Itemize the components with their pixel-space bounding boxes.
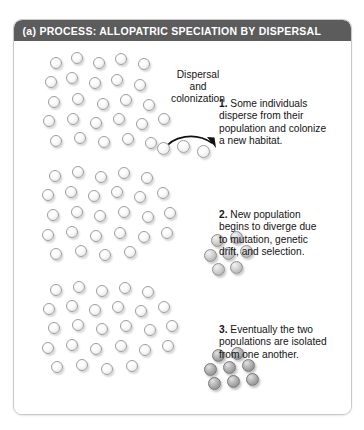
- organism-sphere: [158, 301, 170, 313]
- organism-sphere: [71, 52, 83, 64]
- figure-card: (a) PROCESS: ALLOPATRIC SPECIATION BY DI…: [13, 19, 352, 415]
- organism-sphere: [120, 320, 132, 332]
- figure-header-bar: (a) PROCESS: ALLOPATRIC SPECIATION BY DI…: [14, 20, 351, 41]
- step-1-text: Some individuals disperse from their pop…: [219, 98, 326, 146]
- organism-sphere: [166, 320, 178, 332]
- organism-sphere: [90, 117, 102, 129]
- organism-sphere: [51, 361, 63, 373]
- organism-sphere: [90, 230, 102, 242]
- organism-sphere: [139, 344, 151, 356]
- organism-sphere: [66, 226, 78, 238]
- organism-sphere: [142, 211, 154, 223]
- organism-sphere: [230, 261, 243, 274]
- organism-sphere: [122, 133, 134, 145]
- organism-sphere: [115, 340, 127, 352]
- organism-sphere: [74, 132, 86, 144]
- step-3-text: Eventually the two populations are isola…: [219, 324, 327, 360]
- organism-sphere: [157, 142, 170, 155]
- organism-sphere: [67, 113, 79, 125]
- organism-sphere: [96, 285, 108, 297]
- organism-sphere: [98, 136, 110, 148]
- organism-sphere: [93, 57, 105, 69]
- organism-sphere: [144, 324, 156, 336]
- organism-sphere: [115, 53, 127, 65]
- organism-sphere: [111, 74, 123, 86]
- organism-sphere: [88, 190, 100, 202]
- organism-sphere: [42, 189, 54, 201]
- dispersal-label-line-2: and: [155, 81, 241, 93]
- organism-sphere: [76, 359, 88, 371]
- organism-sphere: [72, 166, 84, 178]
- organism-sphere: [118, 167, 130, 179]
- organism-sphere: [42, 229, 54, 241]
- organism-sphere: [138, 231, 150, 243]
- organism-sphere: [134, 79, 146, 91]
- organism-sphere: [223, 361, 236, 374]
- organism-sphere: [97, 98, 109, 110]
- step-3-caption: 3. Eventually the two populations are is…: [219, 324, 327, 361]
- organism-sphere: [90, 343, 102, 355]
- organism-sphere: [197, 145, 210, 158]
- organism-sphere: [141, 172, 153, 184]
- organism-sphere: [142, 286, 154, 298]
- figure-panel-a: (a) PROCESS: ALLOPATRIC SPECIATION BY DI…: [0, 0, 364, 430]
- organism-sphere: [112, 301, 124, 313]
- organism-sphere: [48, 322, 60, 334]
- organism-sphere: [124, 246, 136, 258]
- step-2-text: New population begins to diverge due to …: [219, 209, 316, 257]
- step-1-number: 1.: [219, 98, 228, 109]
- organism-sphere: [161, 227, 173, 239]
- organism-sphere: [94, 210, 106, 222]
- figure-title: (a) PROCESS: ALLOPATRIC SPECIATION BY DI…: [14, 25, 321, 37]
- organism-sphere: [43, 115, 55, 127]
- organism-sphere: [119, 282, 131, 294]
- organism-sphere: [145, 137, 157, 149]
- organism-sphere: [50, 135, 62, 147]
- organism-sphere: [50, 284, 62, 296]
- organism-sphere: [138, 58, 150, 70]
- organism-sphere: [65, 186, 77, 198]
- organism-sphere: [89, 77, 101, 89]
- organism-sphere: [208, 377, 221, 390]
- organism-sphere: [66, 300, 78, 312]
- organism-sphere: [162, 340, 174, 352]
- organism-sphere: [134, 191, 146, 203]
- organism-sphere: [89, 304, 101, 316]
- organism-sphere: [177, 140, 190, 153]
- organism-sphere: [126, 360, 138, 372]
- organism-sphere: [45, 76, 57, 88]
- organism-sphere: [204, 249, 217, 262]
- step-2-number: 2.: [219, 209, 228, 220]
- organism-sphere: [72, 319, 84, 331]
- organism-sphere: [227, 375, 240, 388]
- step-3-number: 3.: [219, 324, 228, 335]
- organism-sphere: [96, 323, 108, 335]
- organism-sphere: [118, 206, 130, 218]
- organism-sphere: [113, 113, 125, 125]
- step-2-caption: 2. New population begins to diverge due …: [219, 209, 327, 259]
- organism-sphere: [158, 113, 170, 125]
- figure-body: Dispersal and colonization 1. Some indiv…: [14, 41, 351, 415]
- organism-sphere: [49, 170, 61, 182]
- organism-sphere: [120, 94, 132, 106]
- organism-sphere: [72, 93, 84, 105]
- organism-sphere: [95, 171, 107, 183]
- organism-sphere: [50, 57, 62, 69]
- step-1-caption: 1. Some individuals disperse from their …: [219, 98, 327, 148]
- organism-sphere: [73, 281, 85, 293]
- organism-sphere: [43, 303, 55, 315]
- organism-sphere: [66, 339, 78, 351]
- organism-sphere: [212, 263, 225, 276]
- organism-sphere: [114, 227, 126, 239]
- organism-sphere: [48, 96, 60, 108]
- organism-sphere: [164, 207, 176, 219]
- organism-sphere: [50, 248, 62, 260]
- organism-sphere: [75, 245, 87, 257]
- organism-sphere: [143, 99, 155, 111]
- organism-sphere: [101, 363, 113, 375]
- dispersal-label-line-1: Dispersal: [155, 69, 241, 81]
- organism-sphere: [71, 206, 83, 218]
- organism-sphere: [66, 72, 78, 84]
- organism-sphere: [47, 209, 59, 221]
- organism-sphere: [111, 186, 123, 198]
